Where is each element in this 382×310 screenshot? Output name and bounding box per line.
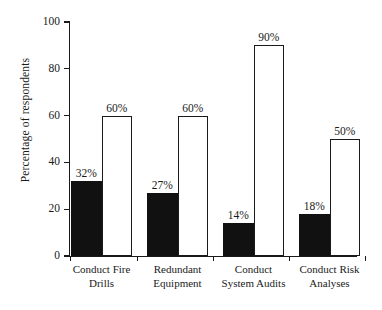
x-axis-category-label-line: Drills xyxy=(64,277,140,291)
bar-value-label: 14% xyxy=(217,209,260,221)
x-axis-category-label-line: Equipment xyxy=(140,277,216,291)
bar-open xyxy=(102,116,133,256)
y-axis-tick-label-text: 20 xyxy=(34,203,60,215)
y-axis-tick xyxy=(64,21,69,22)
bar-value-label: 90% xyxy=(248,31,291,43)
x-axis-tick xyxy=(213,256,214,261)
y-axis-tick xyxy=(64,162,69,163)
x-axis-category-label-line: Conduct xyxy=(216,263,292,277)
bar-open xyxy=(330,139,361,256)
y-axis-tick-label: 100 xyxy=(32,16,60,28)
bar-value-label: 60% xyxy=(172,102,215,114)
bar-chart: Percentage of respondents 020406080100 3… xyxy=(0,0,382,310)
x-axis-category-label: Conduct FireDrills xyxy=(64,263,140,290)
bar-value-label: 60% xyxy=(96,102,139,114)
x-axis-tick xyxy=(137,256,138,261)
bar-value-label: 18% xyxy=(293,200,336,212)
y-axis-tick xyxy=(64,68,69,69)
y-axis-tick-label: 80 xyxy=(32,63,60,75)
bar-filled xyxy=(147,193,178,256)
x-axis-category-label-line: Redundant xyxy=(140,263,216,277)
x-axis-category-label-line: System Audits xyxy=(216,277,292,291)
x-axis-tick xyxy=(70,256,71,261)
y-axis-tick-label-text: 80 xyxy=(34,63,60,75)
y-axis-tick-label-text: 100 xyxy=(34,16,60,28)
bar-value-label: 50% xyxy=(324,125,367,137)
bar-filled xyxy=(299,214,330,256)
x-axis-category-label-line: Analyses xyxy=(292,277,368,291)
y-axis-tick-label-text: 60 xyxy=(34,110,60,122)
bar-filled xyxy=(71,181,102,256)
y-axis-tick-label-text: 0 xyxy=(34,250,60,262)
y-axis-tick xyxy=(64,115,69,116)
bar-value-label: 27% xyxy=(141,179,184,191)
y-axis-tick xyxy=(64,209,69,210)
y-axis-tick-label: 20 xyxy=(32,203,60,215)
y-axis-tick xyxy=(64,255,69,256)
y-axis-tick-label-text: 40 xyxy=(34,156,60,168)
y-axis-tick-label: 60 xyxy=(32,110,60,122)
bar-open xyxy=(254,45,285,256)
x-axis-category-label-line: Conduct Fire xyxy=(64,263,140,277)
bar-filled xyxy=(223,223,254,256)
x-axis-category-label-line: Conduct Risk xyxy=(292,263,368,277)
y-axis-tick-label: 40 xyxy=(32,156,60,168)
x-axis-category-label: Conduct RiskAnalyses xyxy=(292,263,368,290)
bar-value-label: 32% xyxy=(65,167,108,179)
x-axis-category-label: ConductSystem Audits xyxy=(216,263,292,290)
x-axis-category-label: RedundantEquipment xyxy=(140,263,216,290)
x-axis-tick xyxy=(289,256,290,261)
y-axis-tick-label: 0 xyxy=(32,250,60,262)
x-axis-tick xyxy=(365,256,366,261)
